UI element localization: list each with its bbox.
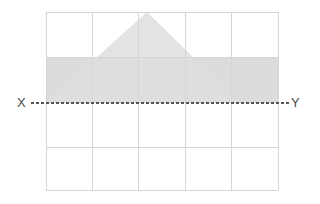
axis-label-x: X	[17, 96, 26, 109]
axis-label-y: Y	[291, 96, 300, 109]
geometry-figure	[0, 0, 320, 204]
